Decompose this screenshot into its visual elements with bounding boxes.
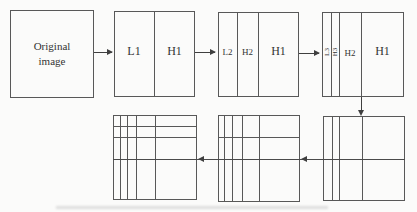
row-stage3-hdivider-2	[113, 137, 197, 138]
row-stage3-vdivider-3	[136, 115, 137, 200]
original-image-label-line1: Original	[34, 39, 71, 54]
stage1-label-l1: L1	[114, 44, 154, 58]
row-stage2-hdivider-1	[218, 137, 300, 138]
stage3-label-h1: H1	[361, 44, 404, 58]
stage2-label-l2: L2	[218, 46, 237, 58]
wavelet-decomposition-diagram: Original image L1 H1 L2 H2 H1 L3 H3 H2 H…	[0, 0, 417, 212]
arrowhead-right-icon	[314, 50, 320, 56]
row-stage3-vdivider-1	[120, 115, 121, 200]
row-flow-line	[113, 159, 405, 160]
row-stage3-vdivider-2	[127, 115, 128, 200]
arrow-stage3-down-line	[361, 97, 362, 111]
original-image-label-line2: image	[39, 54, 66, 69]
stage3-label-h2: H2	[339, 47, 361, 59]
original-image-label: Original image	[10, 10, 94, 98]
arrowhead-right-icon	[107, 49, 113, 55]
stage2-label-h1: H1	[258, 44, 299, 58]
row-stage3-hdivider-1	[113, 126, 197, 127]
row-stage3-vdivider-4	[155, 115, 156, 200]
arrowhead-left-icon	[301, 156, 307, 162]
stage1-label-h1: H1	[154, 44, 195, 58]
arrowhead-right-icon	[210, 49, 216, 55]
stage2-label-h2: H2	[237, 46, 258, 58]
scan-artifact	[56, 206, 328, 209]
arrowhead-left-icon	[198, 156, 204, 162]
